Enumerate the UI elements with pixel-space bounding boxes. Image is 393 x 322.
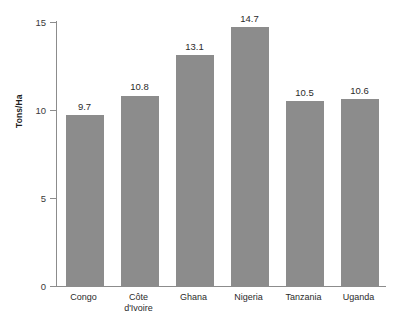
bar-group[interactable]: 13.1 <box>176 22 214 286</box>
bar[interactable] <box>341 99 379 286</box>
x-tick-label-line: Nigeria <box>221 292 276 303</box>
bar-chart: Tons/Ha 051015 9.710.813.114.710.510.6 C… <box>0 0 393 322</box>
x-tick-label-line: Ghana <box>166 292 221 303</box>
bar-value-label: 14.7 <box>240 14 259 24</box>
x-tick-label: Tanzania <box>276 292 331 303</box>
y-tick-label: 5 <box>16 194 46 204</box>
y-tick-label: 0 <box>16 282 46 292</box>
bar[interactable] <box>231 27 269 286</box>
bar-value-label: 13.1 <box>185 42 204 52</box>
x-tick-label-line: Tanzania <box>276 292 331 303</box>
x-tick-label: Ghana <box>166 292 221 303</box>
x-tick-label-line: d'Ivoire <box>111 303 166 314</box>
bar-group[interactable]: 10.8 <box>121 22 159 286</box>
plot-area: 9.710.813.114.710.510.6 <box>56 22 386 286</box>
x-tick-label: Uganda <box>331 292 386 303</box>
y-tick-label: 15 <box>16 18 46 28</box>
bar-value-label: 10.5 <box>295 88 314 98</box>
bar-group[interactable]: 10.6 <box>341 22 379 286</box>
y-tick-mark <box>50 286 56 287</box>
bar[interactable] <box>121 96 159 286</box>
x-tick-label-line: Côte <box>111 292 166 303</box>
bar-group[interactable]: 9.7 <box>66 22 104 286</box>
y-tick-label: 10 <box>16 106 46 116</box>
bar[interactable] <box>176 55 214 286</box>
x-tick-label: Congo <box>56 292 111 303</box>
bar-value-label: 10.8 <box>130 82 149 92</box>
bar[interactable] <box>286 101 324 286</box>
bar-group[interactable]: 14.7 <box>231 22 269 286</box>
bar-group[interactable]: 10.5 <box>286 22 324 286</box>
x-tick-label: Côted'Ivoire <box>111 292 166 313</box>
x-tick-label: Nigeria <box>221 292 276 303</box>
x-axis-line <box>56 286 386 287</box>
x-tick-label-line: Congo <box>56 292 111 303</box>
bar-value-label: 9.7 <box>78 102 91 112</box>
x-tick-label-line: Uganda <box>331 292 386 303</box>
bar[interactable] <box>66 115 104 286</box>
bar-value-label: 10.6 <box>350 86 369 96</box>
